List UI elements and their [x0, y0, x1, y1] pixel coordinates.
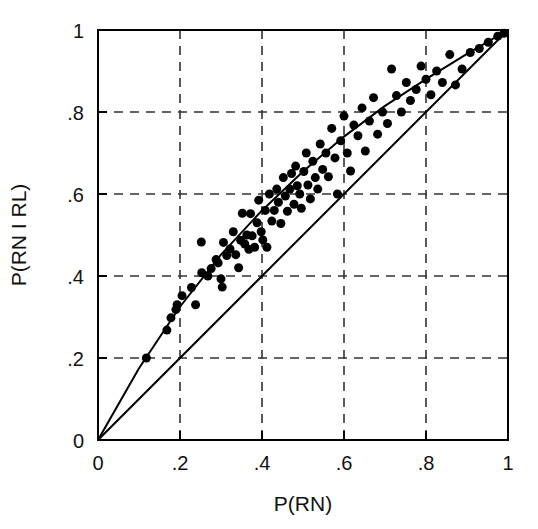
data-point [378, 108, 387, 117]
data-point [412, 85, 421, 94]
data-point [299, 167, 308, 176]
data-point [262, 243, 271, 252]
data-point [283, 207, 292, 216]
data-point [313, 185, 322, 194]
data-point [246, 209, 255, 218]
data-point [330, 153, 339, 162]
data-point [291, 162, 300, 171]
data-point [336, 136, 345, 145]
data-point [276, 219, 285, 228]
data-point [311, 173, 320, 182]
data-point [267, 217, 276, 226]
data-point [178, 291, 187, 300]
data-point [383, 119, 392, 128]
data-point [361, 146, 370, 155]
data-point [458, 64, 467, 73]
data-point [187, 283, 196, 292]
data-point [475, 44, 484, 53]
data-point [279, 173, 288, 182]
data-point [303, 180, 312, 189]
data-point [402, 78, 411, 87]
data-point [231, 250, 240, 259]
x-tick-label: .6 [336, 452, 353, 474]
data-point [253, 218, 262, 227]
data-point [306, 194, 315, 203]
y-tick-label: 0 [73, 430, 84, 452]
x-tick-label: 1 [502, 452, 513, 474]
data-point [217, 274, 226, 283]
data-point [318, 165, 327, 174]
data-point [272, 185, 281, 194]
x-axis-title: P(RN) [274, 492, 332, 515]
data-point [297, 204, 306, 213]
data-point [308, 157, 317, 166]
data-point [261, 206, 270, 215]
data-point [166, 313, 175, 322]
data-point [207, 264, 216, 273]
data-point [302, 149, 311, 158]
data-point [484, 38, 493, 47]
data-point [422, 75, 431, 84]
data-point [432, 67, 441, 76]
data-point [265, 190, 274, 199]
data-point [295, 190, 304, 199]
data-point [369, 93, 378, 102]
data-point [349, 121, 358, 130]
data-point [234, 263, 243, 272]
data-point [499, 29, 508, 38]
x-tick-label: .4 [254, 452, 271, 474]
data-point [365, 117, 374, 126]
data-point [406, 96, 415, 105]
data-point [238, 209, 247, 218]
data-point [426, 90, 435, 99]
x-tick-label: 0 [92, 452, 103, 474]
data-point [397, 108, 406, 117]
y-tick-label: .8 [67, 102, 84, 124]
data-point [343, 149, 352, 158]
data-point [218, 283, 227, 292]
data-point [270, 206, 279, 215]
scatter-plot-figure: 0.2.4.6.81 0.2.4.6.81 P(RN) P(RN I RL) [0, 0, 538, 529]
data-point [327, 124, 336, 133]
y-tick-label: 1 [73, 20, 84, 42]
data-point [373, 130, 382, 139]
data-point [417, 62, 426, 71]
data-point [340, 112, 349, 121]
data-point [248, 231, 257, 240]
data-point [257, 227, 266, 236]
data-point [173, 300, 182, 309]
x-tick-label: .8 [418, 452, 435, 474]
data-point [346, 167, 355, 176]
data-point [451, 80, 460, 89]
data-point [250, 243, 259, 252]
data-point [229, 227, 238, 236]
data-point [333, 190, 342, 199]
data-point [219, 238, 228, 247]
y-tick-label: .6 [67, 184, 84, 206]
data-point [197, 237, 206, 246]
data-point [387, 64, 396, 73]
y-tick-label: .4 [67, 266, 84, 288]
data-point [353, 131, 362, 140]
data-point [142, 354, 151, 363]
y-tick-label: .2 [67, 348, 84, 370]
data-point [445, 50, 454, 59]
data-point [466, 48, 475, 57]
data-point [321, 149, 330, 158]
x-tick-label: .2 [172, 452, 189, 474]
data-point [358, 103, 367, 112]
y-axis-title: P(RN I RL) [7, 184, 30, 287]
data-point [316, 139, 325, 148]
data-point [392, 91, 401, 100]
data-point [438, 78, 447, 87]
data-point [214, 258, 223, 267]
data-point [162, 326, 171, 335]
data-point [274, 198, 283, 207]
data-point [324, 172, 333, 181]
data-point [254, 196, 263, 205]
data-point [293, 181, 302, 190]
data-point [191, 300, 200, 309]
